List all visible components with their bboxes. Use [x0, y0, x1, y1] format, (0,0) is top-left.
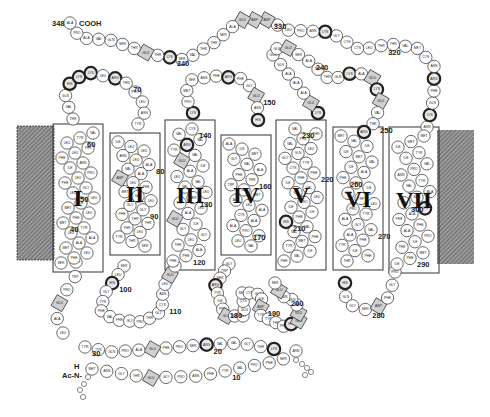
residue-label: LEU: [174, 175, 181, 179]
residue-his: HIS: [252, 114, 264, 126]
residue-leu: LEU: [97, 70, 109, 82]
residue-met: MET: [335, 130, 347, 142]
residue-label: PHE: [116, 318, 124, 322]
residue-label: ALA: [404, 229, 411, 233]
residue-label: LYS: [271, 347, 278, 351]
residue-label: PRO: [177, 375, 185, 379]
residue-label: ALA: [187, 169, 194, 173]
residue-label: GLN: [62, 94, 70, 98]
residue-label: ALA: [138, 172, 145, 176]
residue-met: MET: [405, 135, 417, 147]
residue-label: GLY: [244, 342, 251, 346]
residue-label: ARG: [183, 143, 191, 147]
residue-pro: PRO: [240, 225, 252, 237]
residue-pro: PRO: [294, 24, 306, 36]
residue-lys: LYS: [424, 109, 436, 121]
helix-label-vi: VI: [345, 186, 372, 212]
residue-tyr: TYR: [219, 365, 231, 377]
residue-number: 20: [214, 347, 222, 356]
residue-label: TYR: [81, 226, 88, 230]
residue-label: PRO: [242, 229, 250, 233]
residue-label: ALA: [136, 348, 143, 352]
residue-label: TYR: [116, 235, 123, 239]
residue-number: 10: [232, 373, 240, 382]
residue-label: TYR: [416, 151, 423, 155]
residue-label: GLN: [342, 295, 350, 299]
residue-lys: LYS: [164, 51, 176, 63]
residue-met: MET: [249, 148, 261, 160]
residue-label: PHE: [71, 256, 79, 260]
residue-label: SER: [58, 261, 66, 265]
residue-number: 220: [321, 175, 334, 184]
residue-label: LEU: [75, 176, 82, 180]
residue-gly: GLY: [228, 153, 240, 165]
residue-label: PHE: [298, 176, 306, 180]
residue-gly: GLY: [386, 279, 398, 291]
residue-phe: PHE: [381, 292, 393, 304]
residue-met: MET: [86, 363, 98, 375]
residue-pro: PRO: [175, 371, 187, 383]
residue-label: ASN: [80, 161, 88, 165]
residue-phe: PHE: [68, 252, 80, 264]
residue-cys: CYS: [186, 123, 198, 135]
residue-label: VAL: [217, 342, 223, 346]
residue-label: PHE: [360, 238, 368, 242]
residue-ile: ILE: [236, 143, 248, 155]
residue-label: TYR: [303, 161, 310, 165]
residue-tyr: TYR: [416, 174, 428, 186]
residue-thr: THR: [172, 239, 184, 251]
residue-label: ASN: [431, 64, 439, 68]
residue-label: ARG: [225, 75, 233, 79]
residue-leu: LEU: [185, 234, 197, 246]
residue-label: PRO: [424, 234, 432, 238]
residue-phe: PHE: [180, 250, 192, 262]
residue-number: 100: [119, 285, 132, 294]
residue-label: ASN: [309, 29, 317, 33]
residue-gly: GLY: [198, 228, 210, 240]
residue-label: HIS: [283, 220, 289, 224]
residue-gly: GLY: [346, 300, 358, 312]
residue-label: ALA: [185, 211, 192, 215]
residue-ala: ALA: [254, 163, 266, 175]
residue-phe: PHE: [59, 177, 71, 189]
residue-label: ASN: [293, 349, 301, 353]
residue-val: VAL: [63, 101, 75, 113]
residue-label: PHE: [266, 361, 274, 365]
residue-label: ILE: [403, 156, 409, 160]
residue-label: ILE: [307, 249, 313, 253]
residue-leu: LEU: [57, 327, 69, 339]
residue-label: LEU: [64, 141, 71, 145]
residue-ala: ALA: [64, 17, 76, 29]
residue-ala: ALA: [51, 312, 63, 324]
residue-gln: GLN: [59, 89, 71, 101]
residue-label: PHE: [73, 216, 81, 220]
residue-label: TYR: [363, 212, 370, 216]
residue-label: ILE: [239, 147, 245, 151]
residue-label: VAL: [231, 341, 237, 345]
residue-number: 290: [417, 260, 430, 269]
residue-pro: PRO: [422, 230, 434, 242]
residue-ser: SER: [277, 353, 289, 365]
residue-label: PHE: [281, 259, 289, 263]
residue-label: GLY: [246, 84, 253, 88]
residue-label: LYS: [88, 71, 95, 75]
residue-label: CYS: [240, 299, 248, 303]
topology-diagram: METASNGLYTHRGLUGLYPROASNPHETYRVALPROPHES…: [0, 0, 490, 417]
residue-label: ILE: [352, 249, 358, 253]
c-terminus-number: 348: [52, 19, 65, 28]
residue-pro: PRO: [85, 167, 97, 179]
residue-label: ALA: [358, 72, 365, 76]
residue-label: MET: [337, 134, 344, 138]
helix-label-i: I: [73, 185, 82, 211]
residue-label: GLY: [155, 311, 162, 315]
residue-label: LYS: [427, 113, 434, 117]
residue-label: PRO: [73, 31, 81, 35]
residue-number: 40: [70, 225, 78, 234]
residue-cys: CYS: [235, 209, 247, 221]
residue-label: LEU: [366, 46, 373, 50]
residue-label: PHE: [237, 77, 245, 81]
residue-number: 180: [230, 311, 243, 320]
residue-label: LEU: [141, 149, 148, 153]
residue-ile: ILE: [349, 244, 361, 256]
residue-label: GLY: [180, 227, 187, 231]
